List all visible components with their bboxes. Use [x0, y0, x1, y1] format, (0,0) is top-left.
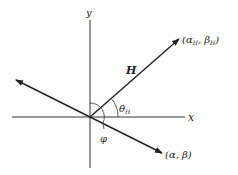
phi-label: φ: [100, 133, 107, 144]
vector-opposite: [16, 80, 90, 117]
vector-h-endpoint-label: (αH, βH): [182, 34, 219, 46]
x-axis-label: x: [188, 111, 195, 124]
y-axis-label: y: [85, 7, 92, 18]
theta-h-arc: [111, 98, 118, 117]
theta-h-label: θH: [119, 103, 131, 115]
svg-text:(αH, βH): (αH, βH): [182, 34, 219, 46]
alpha-beta-endpoint-label: (α, β): [165, 149, 192, 160]
vector-h-label: H: [125, 64, 137, 77]
svg-text:θH: θH: [119, 103, 131, 115]
vector-diagram: y x H (αH, βH) θH φ (α, β): [0, 0, 238, 175]
vector-h: [90, 39, 179, 117]
